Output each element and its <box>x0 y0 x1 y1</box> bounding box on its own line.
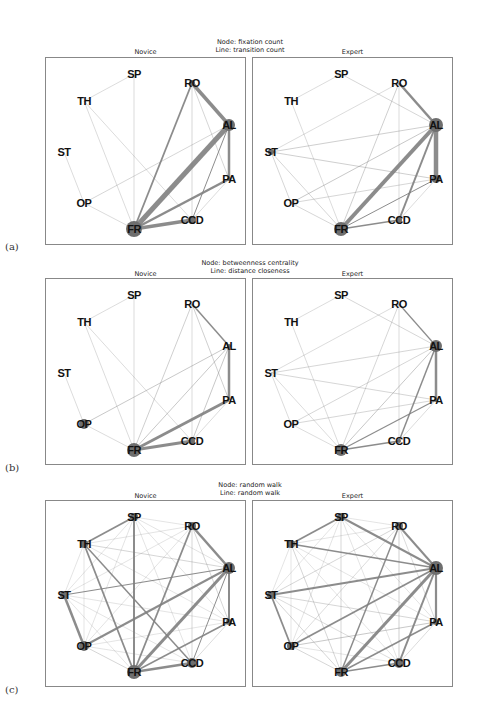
network-graph: SPROALPACCDFROPSTTH <box>46 279 245 465</box>
node-TH-label: TH <box>284 316 298 328</box>
node-CCD-label: CCD <box>181 214 204 226</box>
edge-RO-FR <box>134 83 192 229</box>
edge-TH-FR <box>84 101 134 229</box>
edge-ST-OP <box>271 373 291 424</box>
row-a-novice-graph: SPROALPACCDFROPSTTH <box>45 57 246 245</box>
row-a-expert-graph: SPROALPACCDFROPSTTH <box>252 57 453 245</box>
node-CCD-label: CCD <box>181 657 204 669</box>
edge-TH-ST <box>64 544 84 595</box>
edge-TH-FR <box>84 322 134 450</box>
edge-SP-ST <box>271 517 341 595</box>
node-OP-label: OP <box>284 197 299 209</box>
edge-SP-AL <box>341 74 436 125</box>
node-RO-label: RO <box>184 298 200 310</box>
node-SP-label: SP <box>127 511 141 523</box>
node-ST-label: ST <box>264 146 278 158</box>
row-c-label: (c) <box>5 684 18 695</box>
row-b-expert-graph: SPROALPACCDFROPSTTH <box>252 278 453 465</box>
edge-ST-FR <box>271 152 341 229</box>
row-c-node-legend: Node: random walk <box>150 481 350 489</box>
edge-TH-CCD <box>84 322 192 441</box>
edge-SP-OP <box>291 517 341 646</box>
node-FR-label: FR <box>334 666 348 678</box>
node-AL-label: AL <box>429 562 443 574</box>
node-CCD-label: CCD <box>388 657 411 669</box>
node-RO-label: RO <box>184 520 200 532</box>
node-CCD-label: CCD <box>181 435 204 447</box>
node-ST-label: ST <box>57 589 71 601</box>
row-b-node-legend: Node: betweenness centrality <box>150 259 350 267</box>
row-b-label: (b) <box>5 462 19 473</box>
edge-TH-FR <box>291 101 341 229</box>
node-TH-label: TH <box>284 538 298 550</box>
edge-ST-FR <box>271 595 341 672</box>
network-graph: SPROALPACCDFROPSTTH <box>46 58 245 244</box>
row-b-expert-title: Expert <box>252 270 453 278</box>
node-PA-label: PA <box>429 173 443 185</box>
node-ST-label: ST <box>57 367 71 379</box>
node-RO-label: RO <box>391 520 407 532</box>
node-OP-label: OP <box>284 640 299 652</box>
edge-ST-PA <box>271 373 436 400</box>
node-CCD-label: CCD <box>388 214 411 226</box>
node-ST-label: ST <box>57 146 71 158</box>
network-graph: SPROALPACCDFROPSTTH <box>253 58 452 244</box>
edge-ST-OP <box>64 152 84 203</box>
node-TH-label: TH <box>77 95 91 107</box>
node-AL-label: AL <box>222 562 236 574</box>
node-RO-label: RO <box>391 77 407 89</box>
row-a-expert-title: Expert <box>252 48 453 56</box>
edge-ST-PA <box>271 152 436 179</box>
network-graph: SPROALPACCDFROPSTTH <box>253 279 452 465</box>
node-TH-label: TH <box>77 316 91 328</box>
node-FR-label: FR <box>334 444 348 456</box>
node-FR-label: FR <box>334 223 348 235</box>
edge-SP-PA <box>134 517 229 622</box>
edge-ST-FR <box>64 595 134 672</box>
row-c-novice-title: Novice <box>45 492 246 500</box>
node-PA-label: PA <box>222 173 236 185</box>
node-SP-label: SP <box>334 68 348 80</box>
node-SP-label: SP <box>127 289 141 301</box>
node-ST-label: ST <box>264 367 278 379</box>
node-OP-label: OP <box>284 418 299 430</box>
node-RO-label: RO <box>391 298 407 310</box>
node-ST-label: ST <box>264 589 278 601</box>
node-OP-label: OP <box>77 640 92 652</box>
edge-TH-CCD <box>84 544 192 663</box>
edge-TH-FR <box>291 322 341 450</box>
node-AL-label: AL <box>429 340 443 352</box>
edge-ST-OP <box>271 595 291 646</box>
edge-SP-OP <box>84 517 134 646</box>
edge-TH-AL <box>84 544 229 568</box>
edge-TH-CCD <box>291 544 399 663</box>
edge-ST-OP <box>271 152 291 203</box>
edge-RO-FR <box>341 304 399 450</box>
node-OP-label: OP <box>77 418 92 430</box>
node-SP-label: SP <box>127 68 141 80</box>
node-PA-label: PA <box>429 616 443 628</box>
edge-TH-ST <box>271 544 291 595</box>
node-CCD-label: CCD <box>388 435 411 447</box>
row-c-expert-graph: SPROALPACCDFROPSTTH <box>252 500 453 687</box>
node-AL-label: AL <box>222 119 236 131</box>
network-graph: SPROALPACCDFROPSTTH <box>46 501 245 687</box>
edge-ST-FR <box>271 373 341 450</box>
edge-RO-FR <box>341 83 399 229</box>
node-TH-label: TH <box>284 95 298 107</box>
node-PA-label: PA <box>429 394 443 406</box>
node-OP-label: OP <box>77 197 92 209</box>
node-FR-label: FR <box>127 666 141 678</box>
row-a-node-legend: Node: fixation count <box>150 38 350 46</box>
edge-ST-OP <box>64 373 84 424</box>
node-AL-label: AL <box>429 119 443 131</box>
node-SP-label: SP <box>334 511 348 523</box>
edge-SP-AL <box>341 295 436 346</box>
node-SP-label: SP <box>334 289 348 301</box>
row-a-novice-title: Novice <box>45 48 246 56</box>
edge-TH-CCD <box>84 101 192 220</box>
edge-ST-OP <box>64 595 84 646</box>
node-PA-label: PA <box>222 616 236 628</box>
edge-RO-FR <box>134 526 192 672</box>
node-TH-label: TH <box>77 538 91 550</box>
